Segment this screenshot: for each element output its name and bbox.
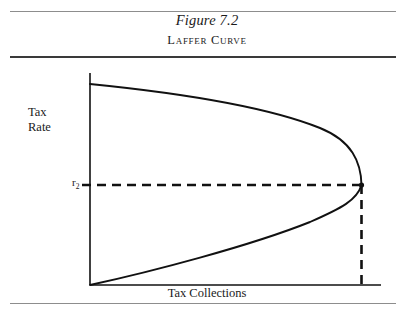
laffer-curve-plot [0, 0, 414, 325]
tick-label-subscript: 2 [76, 182, 80, 191]
figure-page: Figure 7.2 Laffer Curve Tax Rate r2 Tax … [0, 0, 414, 325]
curve-lower-branch [90, 185, 362, 285]
x-axis-label: Tax Collections [0, 286, 414, 301]
vertex-marker [359, 182, 364, 187]
y-axis-label: Tax Rate [28, 105, 51, 135]
y-axis-tick-label-r2: r2 [72, 176, 79, 191]
rule-bottom [10, 303, 396, 304]
curve-upper-branch [90, 84, 362, 185]
